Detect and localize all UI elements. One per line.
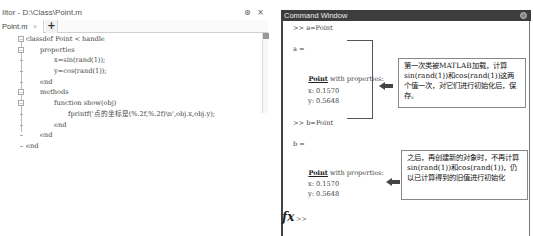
- connector-bracket: [347, 118, 373, 119]
- fold-toggle-icon[interactable]: −: [18, 100, 24, 106]
- tab-close-icon[interactable]: ×: [33, 20, 37, 33]
- output-a-x: x: 0.1570: [308, 87, 339, 95]
- tab-label: Point.m: [2, 22, 27, 31]
- code-text: end: [26, 141, 38, 152]
- code-text: methods: [40, 87, 69, 98]
- fold-toggle-icon[interactable]: −: [18, 36, 24, 42]
- editor-pane: Iitor - D:\Class\Point.m ⊛ × Point.m × +…: [0, 0, 268, 236]
- tab-point-m[interactable]: Point.m ×: [0, 20, 44, 33]
- editor-tabbar: Point.m × +: [0, 20, 268, 33]
- fold-tick: [20, 135, 23, 136]
- code-line[interactable]: −methods: [0, 87, 262, 98]
- code-line[interactable]: −properties: [0, 45, 262, 56]
- fold-tick: [20, 71, 23, 72]
- editor-title: Iitor - D:\Class\Point.m: [0, 6, 268, 20]
- fold-toggle-icon[interactable]: −: [18, 89, 24, 95]
- code-line[interactable]: −classdef Point < handle: [0, 34, 262, 45]
- code-text: function show(obj): [54, 98, 116, 109]
- editor-scrollbar[interactable]: [262, 33, 268, 113]
- code-line[interactable]: end: [0, 141, 262, 152]
- command-prompt[interactable]: >>: [296, 215, 307, 223]
- output-b-x: x: 0.1570: [308, 180, 339, 188]
- new-tab-button[interactable]: +: [46, 20, 58, 33]
- scrollbar-thumb[interactable]: [263, 33, 269, 39]
- code-line[interactable]: y=cos(rand(1));: [0, 66, 262, 77]
- command-window-options-icon[interactable]: [520, 12, 527, 19]
- fold-tick: [20, 146, 23, 147]
- code-line[interactable]: −function show(obj): [0, 98, 262, 109]
- code-text: fprintf('点的坐标是(%.2f,%.2f)\n',obj.x,obj.y…: [68, 109, 215, 120]
- annotation-callout-1: 第一次类被MATLAB加载，计算sin(rand(1))和cos(rand(1)…: [398, 58, 526, 108]
- fold-tick: [20, 114, 23, 115]
- code-text: end: [40, 130, 52, 141]
- editor-title-buttons: ⊛ ×: [240, 6, 264, 20]
- editor-close-icon[interactable]: ×: [257, 8, 264, 17]
- code-line[interactable]: end: [0, 77, 262, 88]
- output-b-header: b =: [293, 140, 305, 148]
- code-line[interactable]: end: [0, 120, 262, 131]
- fold-tick: [20, 60, 23, 61]
- class-link-point[interactable]: Point: [308, 75, 328, 83]
- annotation-callout-2: 之后，再创建新的对象时，不再计算sin(rand(1))和cos(rand(1)…: [401, 150, 528, 200]
- fold-toggle-icon[interactable]: −: [18, 47, 24, 53]
- connector-bracket: [372, 40, 373, 118]
- arrow-left-icon: [386, 178, 400, 186]
- code-text: properties: [40, 45, 75, 56]
- code-text: classdef Point < handle: [26, 34, 105, 45]
- code-text: end: [54, 120, 66, 131]
- code-text: end: [40, 77, 52, 88]
- code-text: y=cos(rand(1));: [54, 66, 107, 77]
- code-line[interactable]: x=sin(rand(1));: [0, 55, 262, 66]
- command-window-title: Command Window: [281, 10, 531, 21]
- command-input-b: >> b=Point: [293, 119, 333, 127]
- command-input-a: >> a=Point: [293, 24, 333, 32]
- output-a-y: y: 0.5648: [308, 97, 339, 105]
- code-line[interactable]: fprintf('点的坐标是(%.2f,%.2f)\n',obj.x,obj.y…: [0, 109, 262, 120]
- connector-bracket: [347, 40, 373, 41]
- code-area[interactable]: −classdef Point < handle−propertiesx=sin…: [0, 34, 262, 152]
- arrow-left-icon: [379, 82, 393, 90]
- command-window[interactable]: Command Window >> a=Point a = Point with…: [281, 10, 530, 236]
- output-b-y: y: 0.5648: [308, 190, 339, 198]
- output-a-header: a =: [293, 45, 305, 53]
- class-link-point[interactable]: Point: [308, 169, 328, 177]
- fold-tick: [20, 82, 23, 83]
- editor-options-icon[interactable]: ⊛: [244, 8, 251, 17]
- code-line[interactable]: end: [0, 130, 262, 141]
- fold-tick: [20, 125, 23, 126]
- fx-icon[interactable]: fx: [282, 210, 294, 224]
- code-text: x=sin(rand(1));: [54, 55, 105, 66]
